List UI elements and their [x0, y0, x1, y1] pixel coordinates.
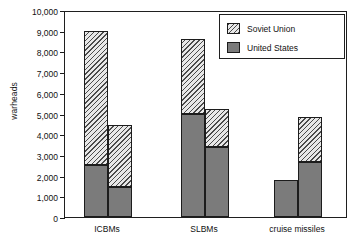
- legend-label: United States: [247, 43, 298, 53]
- bar-icbms-soviet-union: [84, 31, 108, 217]
- y-tick-label: 3,000: [14, 153, 58, 161]
- y-tick-label: 7,000: [14, 70, 58, 78]
- bar-slbms-united-states: [205, 109, 229, 217]
- bar-segment-solid: [108, 187, 132, 217]
- y-tick-label: 6,000: [14, 91, 58, 99]
- x-axis-category-label-slbms: SLBMs: [190, 224, 217, 234]
- bar-segment-solid: [84, 165, 108, 217]
- y-tick-label: 4,000: [14, 132, 58, 140]
- legend-swatch-solid-icon: [227, 42, 240, 53]
- bar-cruise-missiles-soviet-union: [274, 180, 298, 217]
- y-tick-mark: [60, 218, 65, 219]
- y-tick-label: 9,000: [14, 29, 58, 37]
- bar-segment-hatched: [298, 117, 322, 163]
- bar-segment-solid: [274, 180, 298, 217]
- bar-segment-hatched: [205, 109, 229, 146]
- bar-segment-solid: [298, 162, 322, 217]
- bar-chart: warheads 0 1,000 2,000 3,000 4,000 5,000…: [0, 0, 355, 244]
- y-tick-label: 0: [14, 215, 58, 223]
- legend-label: Soviet Union: [247, 24, 295, 34]
- bar-slbms-soviet-union: [181, 39, 205, 217]
- x-axis-category-label-cruise-missiles: cruise missiles: [269, 224, 324, 234]
- legend: Soviet Union United States: [219, 14, 345, 59]
- bar-segment-hatched: [108, 125, 132, 187]
- y-axis-tick-labels: 0 1,000 2,000 3,000 4,000 5,000 6,000 7,…: [11, 0, 58, 244]
- bar-segment-solid: [205, 147, 229, 217]
- bar-segment-solid: [181, 114, 205, 218]
- legend-item-soviet-union: Soviet Union: [227, 20, 338, 37]
- bar-cruise-missiles-united-states: [298, 117, 322, 217]
- bar-segment-hatched: [181, 39, 205, 114]
- y-tick-label: 10,000: [14, 8, 58, 16]
- legend-item-united-states: United States: [227, 39, 338, 56]
- y-tick-label: 1,000: [14, 194, 58, 202]
- bar-segment-hatched: [84, 31, 108, 166]
- y-tick-label: 8,000: [14, 49, 58, 57]
- y-tick-label: 2,000: [14, 174, 58, 182]
- bar-icbms-united-states: [108, 125, 132, 217]
- legend-swatch-hatched-icon: [227, 23, 240, 34]
- x-axis-category-label-icbms: ICBMs: [94, 224, 120, 234]
- y-tick-label: 5,000: [14, 112, 58, 120]
